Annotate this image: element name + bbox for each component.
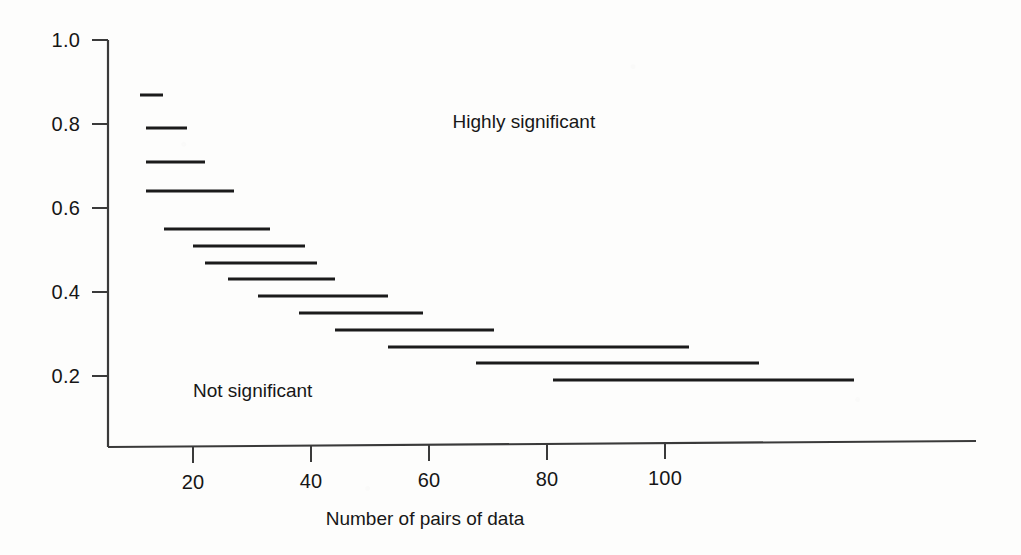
y-tick-label-0.8: 0.8 <box>24 113 80 136</box>
data-segment <box>205 261 317 264</box>
data-segment <box>299 312 423 315</box>
data-segment <box>335 328 494 331</box>
annotation-highly-significant: Highly significant <box>453 111 596 133</box>
chart-figure: 1.0 0.8 0.6 0.4 0.2 20 40 60 80 100 High… <box>0 0 1021 555</box>
data-segment <box>228 278 334 281</box>
y-tick-label-0.4: 0.4 <box>24 281 80 304</box>
data-segment <box>193 244 305 247</box>
x-tick-label-40: 40 <box>276 470 346 493</box>
x-tick-label-60: 60 <box>394 469 464 492</box>
data-segment <box>146 127 187 130</box>
x-axis-spine <box>108 441 976 447</box>
x-tick-label-100: 100 <box>630 467 700 490</box>
y-tick-label-0.6: 0.6 <box>24 197 80 220</box>
data-segment <box>553 379 854 382</box>
data-segment <box>476 362 759 365</box>
data-segment <box>164 228 270 231</box>
plot-area: 1.0 0.8 0.6 0.4 0.2 20 40 60 80 100 High… <box>0 0 1021 555</box>
data-segment <box>146 160 205 163</box>
data-segment <box>146 190 235 193</box>
data-segment <box>388 345 689 348</box>
x-axis-title: Number of pairs of data <box>326 508 525 530</box>
y-tick-label-1.0: 1.0 <box>24 29 80 52</box>
y-tick-label-0.2: 0.2 <box>24 365 80 388</box>
data-segment <box>258 295 388 298</box>
x-tick-label-20: 20 <box>158 471 228 494</box>
axes <box>0 0 1021 555</box>
annotation-not-significant: Not significant <box>193 380 312 402</box>
data-segment <box>140 93 164 96</box>
x-tick-label-80: 80 <box>512 468 582 491</box>
